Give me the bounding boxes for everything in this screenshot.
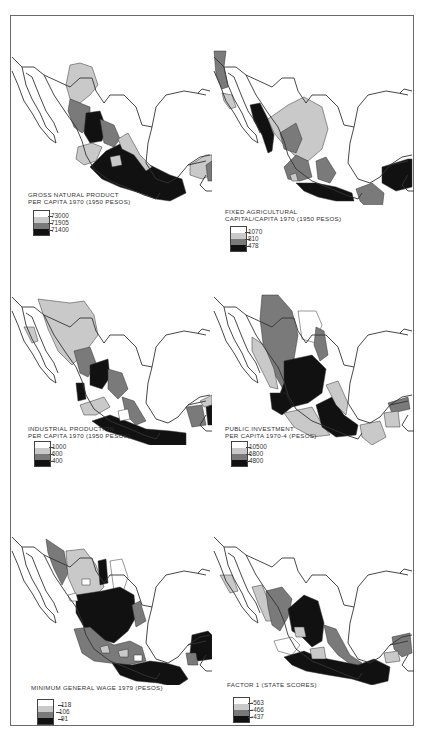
region-small-white-3: [134, 655, 142, 661]
choropleth-map-wage: [10, 495, 212, 685]
map-panel-gnp: GROSS NATURAL PRODUCT PER CAPITA 1970 (1…: [10, 15, 212, 252]
legend-title-factor1: FACTOR 1 (STATE SCORES): [227, 681, 317, 688]
region-baja-north: [214, 51, 228, 89]
map-panel-investment: PUBLIC INVESTMENT PER CAPITA 1970-4 (PES…: [212, 255, 414, 492]
region-nayarit: [76, 383, 86, 401]
region-baja-south: [24, 327, 38, 343]
map-panel-agcap: FIXED AGRICULTURAL CAPITAL/CAPITA 1970 (…: [212, 15, 414, 252]
choropleth-map-gnp: [10, 15, 212, 205]
region-campeche: [186, 653, 198, 665]
region-south-black: [296, 183, 354, 201]
region-zacatecas: [108, 369, 128, 399]
region-baja-south: [220, 575, 238, 593]
region-small-light: [118, 409, 130, 421]
legend-tick: 1070: [248, 228, 262, 235]
region-small-light: [110, 155, 122, 167]
region-tamaulipas: [132, 601, 146, 627]
legend-tick: ·466: [251, 706, 264, 713]
legend-tick: ·563: [251, 699, 264, 706]
legend-tick: 73000: [51, 212, 69, 219]
region-slp: [316, 157, 336, 183]
legend-tick: 10500: [249, 443, 267, 450]
legend-tick: 810: [248, 235, 259, 242]
choropleth-map-agcap: [212, 15, 414, 205]
region-small-white-1: [82, 579, 90, 585]
region-small-white-2: [68, 593, 78, 601]
region-campeche: [384, 651, 400, 663]
region-campeche: [384, 411, 400, 427]
legend-tick: 71905: [51, 219, 69, 226]
legend-title-industrial: INDUSTRIAL PRODUCTION PER CAPITA 1970 (1…: [28, 425, 131, 440]
map-panel-industrial: INDUSTRIAL PRODUCTION PER CAPITA 1970 (1…: [10, 255, 212, 492]
region-sonora: [46, 539, 68, 585]
legend-tick: 6800: [249, 450, 263, 457]
region-jalisco-white: [274, 637, 300, 655]
legend-title-wage: MINIMUM GENERAL WAGE 1979 (PESOS): [31, 684, 163, 691]
region-campeche: [186, 405, 206, 427]
legend-tick: 600: [52, 450, 63, 457]
legend-swatches: [37, 699, 54, 725]
region-south-black: [112, 661, 188, 685]
map-panel-wage: MINIMUM GENERAL WAGE 1979 (PESOS) 118 10…: [10, 495, 212, 732]
region-zacatecas: [100, 119, 120, 147]
region-chiapas: [360, 421, 386, 445]
map-panel-factor1: FACTOR 1 (STATE SCORES) ·563 ·466 ·437: [212, 495, 414, 732]
legend-title-agcap: FIXED AGRICULTURAL CAPITAL/CAPITA 1970 (…: [225, 208, 341, 223]
region-chiapas: [356, 183, 384, 205]
region-south-black: [284, 651, 390, 685]
region-nuevo-leon: [314, 327, 328, 361]
legend-title-gnp: GROSS NATURAL PRODUCT PER CAPITA 1970 (1…: [28, 191, 131, 206]
legend-tick: 106: [59, 708, 70, 715]
choropleth-map-investment: [212, 255, 414, 445]
region-jalisco: [80, 397, 110, 415]
legend-tick: ·437: [251, 713, 264, 720]
legend-tick: 478: [248, 242, 259, 249]
region-sinaloa: [250, 103, 274, 153]
legend-tick: 4800: [249, 457, 263, 464]
region-small-light: [294, 627, 306, 637]
legend-tick: 91: [61, 715, 68, 722]
legend-tick: 1000: [52, 443, 66, 450]
legend-tick: 400: [52, 457, 63, 464]
choropleth-map-factor1: [212, 495, 414, 685]
legend-title-investment: PUBLIC INVESTMENT PER CAPITA 1970-4 (PES…: [225, 425, 317, 440]
region-mexico-light: [310, 647, 326, 659]
legend-tick: 71400: [51, 226, 69, 233]
legend-tick: 118: [61, 701, 71, 708]
choropleth-map-industrial: [10, 255, 212, 445]
